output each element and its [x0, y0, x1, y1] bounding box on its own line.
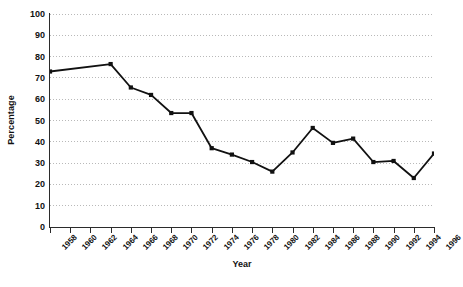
x-tick-label: 1988: [363, 233, 382, 252]
data-point: [391, 159, 395, 163]
y-tick-label: 10: [35, 201, 45, 211]
y-tick-label: 50: [35, 116, 45, 126]
y-axis-title-label: Percentage: [6, 95, 16, 145]
bottom-caption: [2, 279, 262, 287]
gridlines: [50, 14, 434, 227]
x-axis-tick-labels: 1958196019621964196619681970197219741976…: [50, 233, 434, 259]
y-tick-label: 60: [35, 94, 45, 104]
y-axis-line: [49, 13, 50, 228]
y-tick-label: 90: [35, 30, 45, 40]
data-point: [250, 160, 254, 164]
y-tick-label: 40: [35, 137, 45, 147]
data-point: [189, 111, 193, 115]
data-point: [432, 151, 434, 155]
x-tick-label: 1962: [101, 233, 120, 252]
data-point: [169, 111, 173, 115]
x-tick-label: 1970: [181, 233, 200, 252]
data-point: [210, 146, 214, 150]
x-tick-label: 1982: [303, 233, 322, 252]
x-tick-label: 1960: [80, 233, 99, 252]
x-tick-label: 1958: [60, 233, 79, 252]
x-tick-label: 1964: [121, 233, 140, 252]
data-point: [311, 126, 315, 130]
y-tick-label: 0: [40, 222, 45, 232]
y-tick-label: 30: [35, 158, 45, 168]
x-tick-label: 1978: [262, 233, 281, 252]
data-line: [50, 64, 434, 178]
x-tick-label: 1980: [282, 233, 301, 252]
y-tick-label: 100: [30, 9, 45, 19]
x-tick-label: 1986: [343, 233, 362, 252]
data-point: [331, 141, 335, 145]
x-tick-label: 1966: [141, 233, 160, 252]
data-point: [290, 150, 294, 154]
plot-svg: [50, 14, 434, 227]
y-tick-label: 80: [35, 52, 45, 62]
data-point: [371, 160, 375, 164]
x-tick-label: 1972: [202, 233, 221, 252]
x-tick-label: 1984: [323, 233, 342, 252]
x-tick: [434, 228, 435, 233]
data-point: [270, 170, 274, 174]
y-axis-tick-labels: 1009080706050403020100: [22, 0, 48, 240]
x-tick-label: 1990: [383, 233, 402, 252]
x-tick-label: 1968: [161, 233, 180, 252]
y-tick-label: 70: [35, 73, 45, 83]
x-tick-label: 1994: [424, 233, 443, 252]
x-axis-title: Year: [50, 259, 434, 269]
x-tick-label: 1996: [444, 233, 463, 252]
y-axis-title: Percentage: [0, 0, 22, 240]
data-point: [351, 137, 355, 141]
data-point: [149, 93, 153, 97]
x-tick-label: 1992: [404, 233, 423, 252]
data-point: [129, 85, 133, 89]
data-point: [109, 62, 113, 66]
x-tick-label: 1974: [222, 233, 241, 252]
data-point: [50, 69, 52, 73]
data-point: [412, 176, 416, 180]
y-tick-label: 20: [35, 179, 45, 189]
x-tick-label: 1976: [242, 233, 261, 252]
data-point: [230, 152, 234, 156]
plot-area: [50, 14, 434, 227]
